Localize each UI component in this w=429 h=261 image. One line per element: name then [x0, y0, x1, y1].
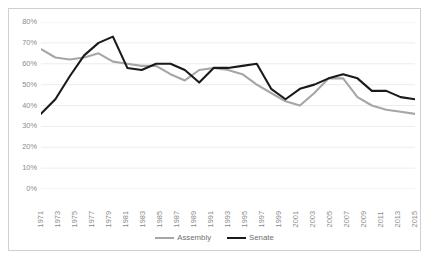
x-axis-tick-label: 1973: [54, 211, 61, 227]
legend-swatch-senate-icon: [227, 237, 246, 239]
x-axis-tick-label: 1971: [37, 211, 44, 227]
legend-swatch-assembly-icon: [155, 237, 174, 239]
y-axis-tick-label: 30%: [7, 123, 37, 130]
x-axis-tick-label: 2005: [326, 211, 333, 227]
x-axis-tick-label: 2015: [411, 211, 418, 227]
x-axis-tick-label: 1991: [207, 211, 214, 227]
y-axis-tick-label: 70%: [7, 39, 37, 46]
x-axis-tick-label: 1981: [122, 211, 129, 227]
chart-container: 80%70%60%50%40%30%20%10%0% 1971197319751…: [0, 0, 429, 261]
legend-label: Assembly: [177, 234, 211, 242]
x-axis-tick-label: 1975: [71, 211, 78, 227]
x-axis-tick-label: 1985: [156, 211, 163, 227]
x-axis-tick-label: 1979: [105, 211, 112, 227]
line-chart-svg: [41, 22, 415, 189]
y-axis: 80%70%60%50%40%30%20%10%0%: [8, 22, 39, 189]
plot-area: [41, 22, 415, 189]
x-axis-tick-label: 2003: [309, 211, 316, 227]
x-axis-tick-label: 1983: [139, 211, 146, 227]
x-axis-tick-label: 1999: [275, 211, 282, 227]
x-axis-tick-label: 1987: [173, 211, 180, 227]
series-lines: [41, 37, 415, 114]
x-axis-tick-label: 2011: [377, 211, 384, 227]
y-axis-tick-label: 40%: [7, 102, 37, 109]
chart-legend: AssemblySenate: [8, 231, 421, 245]
y-axis-tick-label: 50%: [7, 81, 37, 88]
y-axis-tick-label: 80%: [7, 18, 37, 25]
legend-label: Senate: [249, 234, 274, 242]
y-axis-tick-label: 20%: [7, 144, 37, 151]
legend-item-assembly[interactable]: Assembly: [155, 234, 211, 242]
legend-item-senate[interactable]: Senate: [227, 234, 274, 242]
x-axis-tick-label: 1995: [241, 211, 248, 227]
y-axis-tick-label: 0%: [7, 185, 37, 192]
series-line-senate: [41, 37, 415, 114]
x-axis-tick-label: 2001: [292, 211, 299, 227]
series-line-assembly: [41, 49, 415, 114]
x-axis-tick-label: 2007: [343, 211, 350, 227]
gridlines: [41, 22, 415, 189]
y-axis-tick-label: 60%: [7, 60, 37, 67]
x-axis-tick-label: 1997: [258, 211, 265, 227]
x-axis-tick-label: 1989: [190, 211, 197, 227]
x-axis-tick-label: 1993: [224, 211, 231, 227]
x-axis-tick-label: 2013: [394, 211, 401, 227]
x-axis: 1971197319751977197919811983198519871989…: [41, 191, 415, 227]
x-axis-tick-label: 2009: [360, 211, 367, 227]
x-axis-tick-label: 1977: [88, 211, 95, 227]
y-axis-tick-label: 10%: [7, 164, 37, 171]
